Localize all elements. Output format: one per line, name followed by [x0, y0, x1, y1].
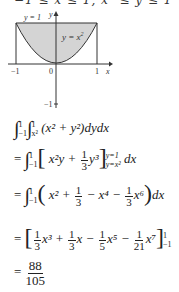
step-3-expanded-integrand: = ∫1−1( x² + 13 − x⁴ − 13x⁶)dx [14, 178, 164, 208]
label-y-eq-1: y = 1 [23, 13, 41, 22]
x-axis-arrow-icon [109, 62, 113, 67]
step-5-result: = 88105 [14, 259, 46, 288]
x-axis-label: x [105, 67, 110, 76]
tick-1-x: 1 [95, 67, 99, 76]
step-1-integral: ∫1−1∫1x² (x² + y²)dydx [14, 114, 109, 138]
step-4-antiderivative: = [13x³ + 13x − 15x⁵ − 121x⁷]1−1 [14, 222, 171, 252]
region-graph: y = 1 y = x2 y x −1 0 1 −1 [0, 0, 179, 112]
step-2-inner-integration: = ∫1−1[ x²y + 13y³]y=1y=x² dx [14, 142, 136, 172]
y-axis-label: y [48, 10, 53, 19]
y-axis-arrow-icon [54, 11, 59, 16]
tick-neg1-y: −1 [44, 100, 53, 109]
label-y-eq-x2: y = x2 [61, 31, 84, 42]
tick-0: 0 [49, 67, 53, 76]
tick-neg1-x: −1 [11, 67, 20, 76]
